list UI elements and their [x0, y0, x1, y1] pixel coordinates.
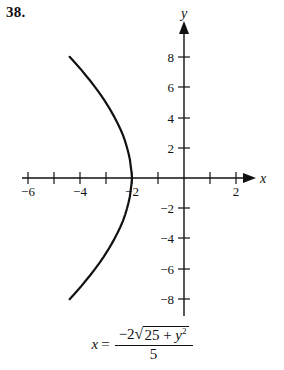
x-tick-label-2: 2 — [233, 184, 240, 199]
y-tick-label-6: 6 — [168, 80, 175, 95]
y-tick-label--2: −2 — [160, 201, 174, 216]
y-tick-label-8: 8 — [168, 50, 175, 65]
y-tick-label--6: −6 — [160, 262, 174, 277]
fraction-numerator: −2√25 + y2 — [115, 326, 193, 345]
graph-area: −6 −4 −2 2 8 6 4 2 −2 −4 −6 −8 x y — [0, 0, 284, 322]
x-axis-label: x — [259, 171, 267, 186]
figure-page: 38. — [0, 0, 284, 370]
radicand-variable: y — [175, 327, 182, 343]
equation-fraction: −2√25 + y2 5 — [115, 326, 193, 363]
equation-equals-sign: = — [101, 336, 109, 353]
equation-row: x = −2√25 + y2 5 — [91, 326, 192, 363]
x-tick-label--6: −6 — [21, 184, 35, 199]
y-axis-arrowhead — [179, 21, 189, 34]
y-tick-label-4: 4 — [168, 111, 175, 126]
radical-sign-icon: √ — [135, 326, 144, 342]
x-axis-arrowhead — [243, 173, 256, 183]
coordinate-plane-graph: −6 −4 −2 2 8 6 4 2 −2 −4 −6 −8 x y — [0, 0, 284, 322]
x-tick-label--4: −4 — [73, 184, 87, 199]
y-tick-label--4: −4 — [160, 231, 174, 246]
axes-group — [22, 21, 256, 316]
equation-lhs: x — [91, 336, 98, 353]
y-tick-label-2: 2 — [168, 141, 175, 156]
square-root-expression: √25 + y2 — [135, 326, 189, 344]
y-axis-label: y — [179, 6, 188, 21]
radicand-exponent: 2 — [182, 326, 187, 336]
y-tick-label--8: −8 — [160, 292, 174, 307]
radicand: 25 + y2 — [143, 326, 188, 344]
radicand-base: 25 + — [144, 327, 175, 343]
equation-caption: x = −2√25 + y2 5 — [0, 326, 284, 370]
fraction-denominator: 5 — [146, 346, 162, 363]
numerator-coefficient: −2 — [119, 326, 135, 342]
